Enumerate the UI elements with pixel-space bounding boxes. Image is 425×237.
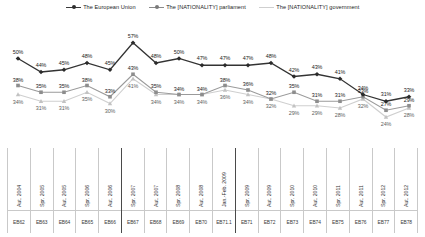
data-label: 33%	[358, 88, 369, 94]
axis-column: Aut. 2005EB64	[54, 148, 77, 233]
axis-date-cell: Spr. 2006	[76, 148, 98, 211]
axis-wave-label: EB72	[259, 211, 281, 233]
data-label: 31%	[312, 92, 323, 98]
axis-wave-label: EB76	[350, 211, 372, 233]
data-label: 31%	[381, 91, 392, 97]
axis-date-cell: Aut. 2010	[304, 148, 326, 211]
axis-column: Aut. 2006EB66	[99, 148, 122, 233]
data-label: 45%	[105, 60, 116, 66]
data-label: 31%	[36, 105, 47, 111]
axis-date-cell: Spr. 2007	[122, 148, 144, 211]
axis-date-label: Spr. 2010	[289, 185, 295, 207]
chart-root: The European Union The [NATIONALITY] par…	[0, 0, 425, 237]
axis-wave-label: EB73	[281, 211, 303, 233]
axis-date-cell: Aut. 2011	[350, 148, 372, 211]
axis-date-label: Aut. 2010	[312, 185, 318, 207]
axis-date-label: Aut. 2011	[358, 185, 364, 207]
data-label: 42%	[289, 67, 300, 73]
data-label: 34%	[174, 99, 185, 105]
axis-date-label: Spr. 2012	[380, 185, 386, 207]
axis-date-cell: Aut. 2012	[395, 148, 417, 211]
axis-date-label: Aut. 2006	[107, 185, 113, 207]
axis-wave-label: EB78	[395, 211, 417, 233]
axis-wave-label: EB62	[8, 211, 30, 233]
x-axis-table: Aut. 2004EB62Spr. 2005EB63Aut. 2005EB64S…	[7, 148, 418, 233]
data-label: 35%	[289, 83, 300, 89]
plot-area: 50%44%45%48%45%57%48%50%47%47%47%48%42%4…	[0, 22, 425, 142]
data-label: 24%	[381, 121, 392, 127]
axis-column: Aut. 2010EB74	[304, 148, 327, 233]
axis-wave-label: EB70	[190, 211, 212, 233]
axis-date-cell: Aut. 2007	[145, 148, 167, 211]
data-label: 44%	[36, 62, 47, 68]
data-label: 28%	[404, 112, 415, 118]
axis-date-label: Spr. 2008	[175, 185, 181, 207]
legend-swatch-government	[259, 5, 274, 10]
data-label: 38%	[13, 77, 24, 83]
data-label: 41%	[128, 83, 139, 89]
data-label: 35%	[36, 83, 47, 89]
data-label: 43%	[312, 64, 323, 70]
data-label: 34%	[13, 99, 24, 105]
data-label: 43%	[128, 65, 139, 71]
axis-column: Aut. 2011EB76	[350, 148, 373, 233]
data-label: 34%	[151, 99, 162, 105]
data-label: 33%	[105, 88, 116, 94]
axis-date-label: Aut. 2005	[61, 185, 67, 207]
data-label: 41%	[335, 69, 346, 75]
legend-item-government: The [NATIONALITY] government	[259, 4, 360, 10]
axis-wave-label: EB74	[304, 211, 326, 233]
legend-item-european-union: The European Union	[66, 4, 136, 10]
axis-date-cell: Aut. 2004	[8, 148, 30, 211]
axis-date-label: Spr. 2006	[84, 185, 90, 207]
axis-wave-label: EB65	[76, 211, 98, 233]
axis-column: Aut. 2004EB62	[7, 148, 31, 233]
data-label: 33%	[404, 87, 415, 93]
axis-date-label: Spr. 2011	[335, 185, 341, 207]
data-label: 57%	[128, 33, 139, 39]
axis-column: Spr. 2010EB73	[281, 148, 304, 233]
legend-swatch-parliament	[149, 5, 164, 10]
data-label: 29%	[289, 110, 300, 116]
axis-column: Spr. 2011EB75	[327, 148, 350, 233]
data-label: 36%	[243, 81, 254, 87]
axis-date-label: Aut. 2012	[403, 185, 409, 207]
chart-legend: The European Union The [NATIONALITY] par…	[0, 4, 425, 10]
legend-label-parliament: The [NATIONALITY] parliament	[166, 4, 246, 10]
data-label: 34%	[243, 99, 254, 105]
axis-date-cell: Spr. 2012	[373, 148, 395, 211]
axis-wave-label: EB63	[31, 211, 53, 233]
axis-column: Aut. 2007EB68	[145, 148, 168, 233]
data-label: 28%	[335, 112, 346, 118]
axis-wave-label: EB77	[373, 211, 395, 233]
axis-date-cell: Aut. 2005	[54, 148, 76, 211]
axis-date-cell: Aut. 2006	[99, 148, 121, 211]
data-label: 50%	[13, 49, 24, 55]
axis-column: Aut. 2008EB70	[190, 148, 213, 233]
data-label: 35%	[59, 83, 70, 89]
axis-column: Aut. 2009EB72	[259, 148, 282, 233]
data-label: 31%	[335, 92, 346, 98]
chart-lines	[0, 22, 425, 142]
data-label: 32%	[266, 103, 277, 109]
axis-wave-label: EB71.1	[213, 211, 235, 233]
axis-column: Spr. 2012EB77	[373, 148, 396, 233]
legend-label-government: The [NATIONALITY] government	[276, 4, 359, 10]
data-label: 35%	[151, 83, 162, 89]
axis-wave-label: EB69	[167, 211, 189, 233]
data-label: 32%	[266, 90, 277, 96]
data-label: 45%	[59, 60, 70, 66]
axis-wave-label: EB75	[327, 211, 349, 233]
axis-column: Spr. 2007EB67	[122, 148, 145, 233]
legend-item-parliament: The [NATIONALITY] parliament	[149, 4, 246, 10]
data-label: 31%	[59, 105, 70, 111]
data-label: 36%	[220, 94, 231, 100]
axis-date-cell: Aut. 2009	[259, 148, 281, 211]
data-label: 48%	[82, 53, 93, 59]
data-label: 38%	[82, 77, 93, 83]
axis-column: Jan.-Feb. 2009EB71.1	[213, 148, 236, 233]
data-label: 34%	[197, 86, 208, 92]
axis-wave-label: EB67	[122, 211, 144, 233]
axis-date-label: Aut. 2004	[16, 185, 22, 207]
data-label: 50%	[174, 49, 185, 55]
